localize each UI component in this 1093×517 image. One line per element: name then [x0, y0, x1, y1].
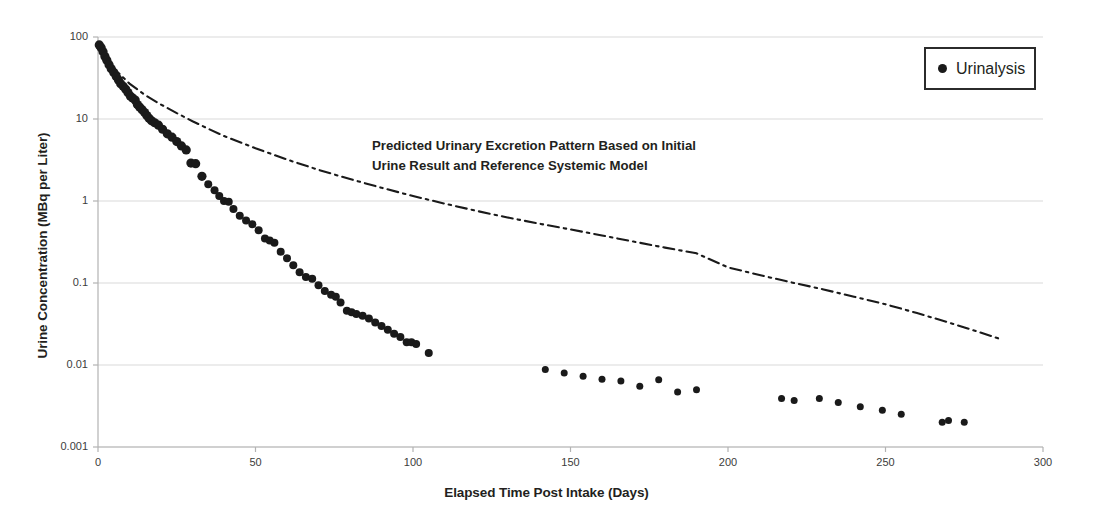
x-tick-label: 100 — [388, 456, 438, 468]
x-tick-marks — [98, 447, 1043, 452]
x-tick-label: 300 — [1018, 456, 1068, 468]
axis-lines — [93, 37, 1043, 447]
legend-label: Urinalysis — [956, 60, 1025, 78]
x-tick-label: 200 — [703, 456, 753, 468]
chart-legend: Urinalysis — [924, 47, 1036, 90]
x-tick-label: 50 — [231, 456, 281, 468]
legend-marker-dot-icon — [938, 64, 947, 73]
x-tick-label: 150 — [546, 456, 596, 468]
chart-annotation-text: Predicted Urinary Excretion Pattern Base… — [372, 136, 696, 176]
x-tick-label: 250 — [861, 456, 911, 468]
gridlines — [98, 37, 1043, 447]
x-axis-title: Elapsed Time Post Intake (Days) — [0, 485, 1093, 500]
predicted-excretion-line — [100, 46, 999, 339]
y-tick-label: 100 — [28, 30, 88, 42]
y-tick-label: 0.001 — [28, 440, 88, 452]
urinalysis-data-points — [95, 40, 968, 425]
chart-container: 0.0010.010.1110100 050100150200250300 Ur… — [0, 0, 1093, 517]
x-tick-label: 0 — [73, 456, 123, 468]
y-axis-title: Urine Concentration (MBq per Liter) — [35, 96, 50, 396]
